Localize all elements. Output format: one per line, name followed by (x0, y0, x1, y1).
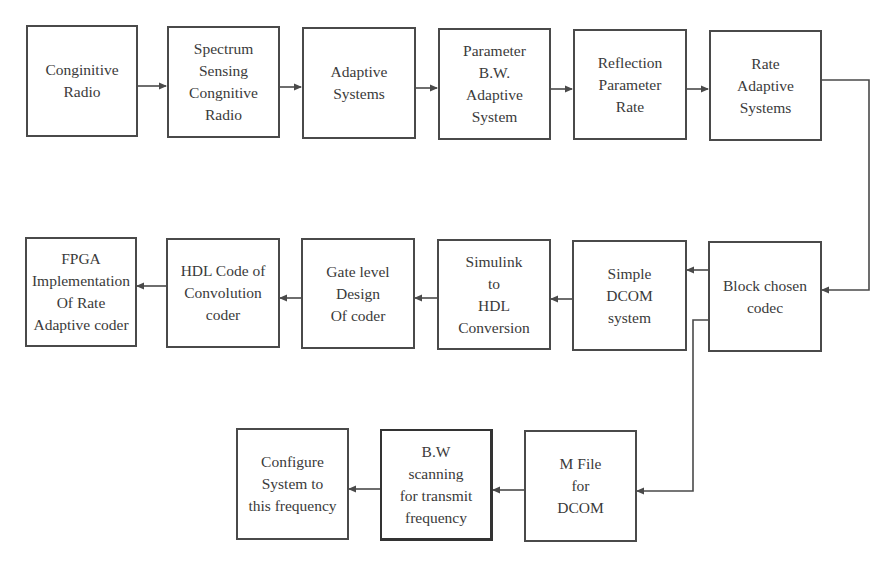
block-bw-scanning: B.W scanning for transmit frequency (380, 429, 493, 541)
block-label: Adaptive (331, 61, 388, 83)
block-reflection-parameter: Reflection Parameter Rate (573, 29, 687, 140)
block-block-chosen-codec: Block chosen codec (708, 241, 822, 352)
block-label: frequency (405, 507, 467, 529)
block-spectrum-sensing: Spectrum Sensing Congnitive Radio (167, 26, 280, 138)
block-label: Rate (616, 96, 644, 118)
block-label: Convolution (184, 282, 262, 304)
block-label: Block chosen (723, 275, 807, 297)
block-configure-system: Configure System to this frequency (236, 428, 349, 540)
block-label: System to (262, 473, 324, 495)
block-label: FPGA (61, 248, 101, 270)
block-label: Reflection (598, 52, 663, 74)
block-label: Sensing (199, 60, 248, 82)
block-rate-adaptive: Rate Adaptive Systems (709, 30, 822, 141)
block-label: DCOM (606, 285, 653, 307)
block-label: Systems (740, 97, 792, 119)
block-label: Simple (608, 263, 652, 285)
block-label: this frequency (248, 495, 336, 517)
block-label: Of Rate (57, 292, 106, 314)
block-label: M File (560, 453, 602, 475)
block-adaptive-systems: Adaptive Systems (302, 27, 416, 139)
block-parameter-bw: Parameter B.W. Adaptive System (438, 28, 551, 140)
block-hdl-code: HDL Code of Convolution coder (166, 238, 280, 348)
block-label: Simulink (466, 251, 523, 273)
block-label: B.W (422, 441, 451, 463)
block-label: Parameter (463, 40, 526, 62)
block-label: Spectrum (194, 38, 253, 60)
block-label: scanning (408, 463, 463, 485)
block-label: Systems (333, 83, 385, 105)
block-label: Congnitive (189, 82, 258, 104)
block-label: for (571, 475, 589, 497)
block-label: Configure (261, 451, 324, 473)
block-label: Conversion (458, 317, 529, 339)
block-label: HDL Code of (181, 260, 266, 282)
block-label: system (608, 307, 651, 329)
block-label: Gate level (326, 261, 389, 283)
block-label: codec (747, 297, 783, 319)
block-fpga-implementation: FPGA Implementation Of Rate Adaptive cod… (25, 237, 137, 347)
block-label: Design (336, 283, 380, 305)
block-label: Radio (63, 81, 100, 103)
block-label: coder (206, 304, 240, 326)
block-label: Of coder (331, 305, 386, 327)
arrow-rate-to-block (821, 80, 869, 290)
block-label: HDL (478, 295, 510, 317)
block-label: to (488, 273, 500, 295)
block-label: Adaptive coder (33, 314, 128, 336)
block-m-file: M File for DCOM (524, 430, 637, 542)
block-label: B.W. (479, 62, 510, 84)
block-label: Adaptive (737, 75, 794, 97)
block-label: System (472, 106, 518, 128)
block-label: Conginitive (45, 59, 118, 81)
block-label: Parameter (599, 74, 662, 96)
block-gate-level: Gate level Design Of coder (301, 238, 415, 349)
block-cognitive-radio: Conginitive Radio (26, 25, 138, 137)
block-label: Rate (751, 53, 779, 75)
block-label: Adaptive (466, 84, 523, 106)
block-simulink-hdl: Simulink to HDL Conversion (437, 239, 551, 350)
block-label: for transmit (400, 485, 473, 507)
block-simple-dcom: Simple DCOM system (572, 240, 687, 351)
block-label: DCOM (557, 497, 604, 519)
block-label: Implementation (32, 270, 130, 292)
block-label: Radio (205, 104, 242, 126)
